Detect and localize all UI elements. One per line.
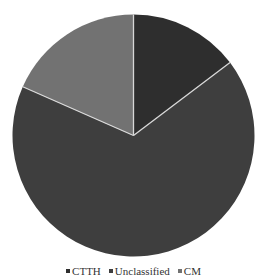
legend-item-cm: CM xyxy=(178,265,201,277)
chart-legend: CTTH Unclassified CM xyxy=(0,263,267,279)
pie-chart xyxy=(0,0,267,258)
legend-item-unclassified: Unclassified xyxy=(109,265,170,277)
legend-swatch-cm xyxy=(178,269,182,273)
legend-item-ctth: CTTH xyxy=(66,265,101,277)
legend-swatch-ctth xyxy=(66,269,70,273)
legend-swatch-unclassified xyxy=(109,269,113,273)
legend-label-unclassified: Unclassified xyxy=(115,265,170,277)
legend-label-cm: CM xyxy=(184,265,201,277)
legend-label-ctth: CTTH xyxy=(72,265,101,277)
